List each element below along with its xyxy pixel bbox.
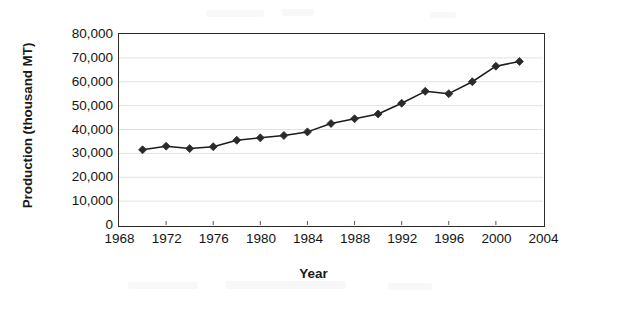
data-point-marker <box>280 131 288 139</box>
plot-area <box>118 33 545 227</box>
y-tick-label: 80,000 <box>23 27 113 41</box>
scan-artifact <box>206 10 264 17</box>
data-point-marker <box>209 143 217 151</box>
data-point-marker <box>374 110 382 118</box>
data-point-marker <box>162 142 170 150</box>
data-point-marker <box>233 136 241 144</box>
scan-artifact <box>226 281 346 289</box>
data-point-marker <box>445 90 453 98</box>
data-point-marker <box>398 99 406 107</box>
chart-figure: Production (thousand MT) 010,00020,00030… <box>0 0 627 309</box>
y-tick-label: 60,000 <box>23 75 113 89</box>
x-axis-title: Year <box>0 266 627 281</box>
scan-artifact <box>430 12 456 18</box>
y-tick-label: 40,000 <box>23 123 113 137</box>
y-tick-label: 70,000 <box>23 51 113 65</box>
data-point-marker <box>468 78 476 86</box>
data-point-marker <box>421 87 429 95</box>
y-tick-label: 0 <box>23 218 113 232</box>
y-tick-label: 10,000 <box>23 194 113 208</box>
y-tick-label: 30,000 <box>23 146 113 160</box>
data-point-marker <box>256 134 264 142</box>
scan-artifact <box>128 282 198 289</box>
data-point-marker <box>327 120 335 128</box>
data-point-marker <box>303 128 311 136</box>
y-tick-label: 20,000 <box>23 170 113 184</box>
data-point-marker <box>351 115 359 123</box>
scan-artifact <box>388 283 432 290</box>
data-point-marker <box>492 62 500 70</box>
y-tick-label: 50,000 <box>23 99 113 113</box>
data-series-production <box>119 34 543 225</box>
data-point-marker <box>515 57 523 65</box>
data-point-marker <box>186 145 194 153</box>
scan-artifact <box>282 9 314 16</box>
series-line <box>143 61 520 149</box>
x-tick-label: 2004 <box>514 232 574 246</box>
data-point-marker <box>139 146 147 154</box>
y-axis-tick-labels: 010,00020,00030,00040,00050,00060,00070,… <box>20 0 113 309</box>
